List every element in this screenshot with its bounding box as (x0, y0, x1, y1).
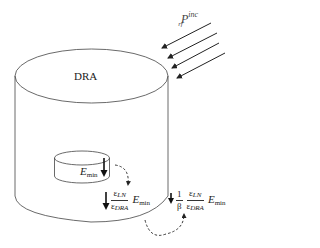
outer-field-factor: Emin (208, 193, 226, 205)
dashed-curve-arrow-icon (115, 165, 128, 185)
eps-subscript: LN (117, 191, 126, 199)
incident-power-arrows (162, 23, 225, 78)
incident-arrow-icon (177, 53, 225, 78)
incident-arrow-icon (172, 43, 219, 68)
dra-label: DRA (74, 71, 97, 82)
field-subscript: min (215, 199, 226, 207)
outer-expression: 1 β εLN εDRA Emin (176, 189, 226, 212)
coefficient-numerator: 1 (176, 190, 183, 201)
field-base: E (208, 193, 215, 205)
eps-subscript: DRA (190, 204, 204, 212)
ratio-numerator: εLN (187, 189, 204, 201)
incident-power-label: Pincrf (181, 11, 197, 28)
coefficient-denominator: β (176, 201, 183, 211)
eps-subscript: LN (193, 191, 202, 199)
middle-expression: εLN εDRA Emin (111, 189, 150, 212)
inner-field-subscript: min (87, 171, 98, 179)
permittivity-ratio: εLN εDRA (187, 189, 204, 212)
ratio-numerator: εLN (111, 189, 128, 201)
field-subscript: min (139, 199, 150, 207)
middle-field-factor: Emin (132, 193, 150, 205)
incident-power-subscript: rf (178, 20, 183, 28)
inner-field-label: Emin (80, 166, 98, 179)
inner-field-base: E (80, 165, 87, 177)
ratio-denominator: εDRA (187, 201, 204, 212)
eps-subscript: DRA (115, 204, 129, 212)
incident-arrow-icon (168, 33, 217, 58)
permittivity-ratio: εLN εDRA (111, 189, 128, 212)
dra-label-text: DRA (74, 70, 97, 82)
dashed-curve-arrow-icon (145, 214, 184, 235)
beta-coefficient: 1 β (176, 190, 183, 211)
ratio-denominator: εDRA (111, 201, 128, 212)
incident-power-superscript: inc (188, 10, 198, 19)
